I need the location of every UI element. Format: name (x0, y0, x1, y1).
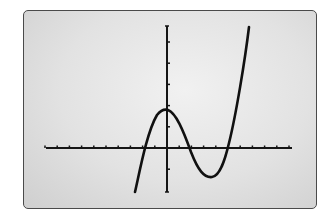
function-plot (0, 0, 335, 220)
x-axis (45, 146, 292, 149)
cubic-curve (135, 27, 249, 192)
